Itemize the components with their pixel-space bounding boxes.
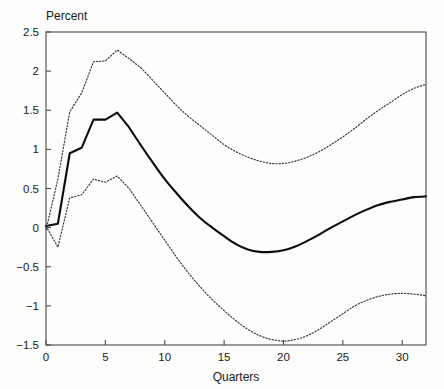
y-tick-label: −1 [26, 300, 39, 312]
y-tick-label: 2.5 [23, 26, 39, 38]
y-tick-label: 1 [33, 143, 39, 155]
plot-frame [46, 32, 426, 345]
y-axis-tick-labels: −1.5−1−0.500.511.522.5 [16, 26, 39, 351]
x-tick-label: 20 [277, 351, 290, 363]
chart-figure: −1.5−1−0.500.511.522.5 051015202530 Perc… [0, 0, 444, 389]
y-tick-label: 0.5 [23, 183, 39, 195]
chart-plot-svg: −1.5−1−0.500.511.522.5 051015202530 Perc… [0, 0, 444, 389]
y-tick-label: 0 [33, 222, 39, 234]
x-axis-tick-labels: 051015202530 [43, 351, 409, 363]
x-tick-label: 5 [102, 351, 108, 363]
tick-marks-group [46, 32, 402, 345]
data-series-group [46, 50, 426, 341]
y-tick-label: −0.5 [16, 261, 39, 273]
x-axis-label: Quarters [213, 370, 260, 384]
x-tick-label: 30 [396, 351, 409, 363]
x-tick-label: 25 [336, 351, 349, 363]
x-tick-label: 15 [218, 351, 231, 363]
series-line-lower-confidence-band [46, 176, 426, 341]
y-tick-label: 2 [33, 65, 39, 77]
y-axis-label: Percent [46, 9, 88, 23]
x-tick-label: 10 [158, 351, 171, 363]
axis-group [46, 32, 426, 345]
y-tick-label: −1.5 [16, 339, 39, 351]
series-line-point-estimate [46, 113, 426, 253]
series-line-upper-confidence-band [46, 50, 426, 230]
y-tick-label: 1.5 [23, 104, 39, 116]
x-tick-label: 0 [43, 351, 49, 363]
